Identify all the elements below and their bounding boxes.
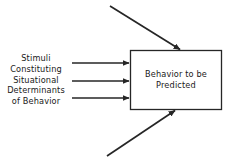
stimuli-label-line-1: Stimuli	[2, 53, 70, 64]
behavior-box-label-line-1: Behavior to be	[131, 69, 221, 80]
behavior-box-label-line-2: Predicted	[131, 80, 221, 91]
diagonal-arrow-top	[110, 6, 180, 50]
stimuli-inputs-label: Stimuli Constituting Situational Determi…	[2, 53, 70, 107]
diagram-canvas: Stimuli Constituting Situational Determi…	[0, 0, 236, 163]
stimuli-label-line-3: Situational	[2, 75, 70, 86]
stimuli-label-line-4: Determinants	[2, 85, 70, 96]
behavior-box-label: Behavior to be Predicted	[131, 69, 221, 91]
stimuli-label-line-2: Constituting	[2, 64, 70, 75]
diagonal-arrow-bottom	[107, 111, 175, 157]
stimuli-label-line-5: of Behavior	[2, 96, 70, 107]
